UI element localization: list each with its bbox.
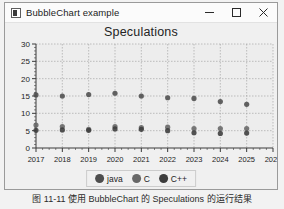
- legend-label-c: C: [144, 174, 150, 184]
- svg-text:2022: 2022: [159, 155, 176, 164]
- screenshot-root: BubbleChart example: [0, 0, 284, 209]
- legend-item-c[interactable]: C: [132, 174, 150, 184]
- svg-text:25: 25: [21, 57, 30, 66]
- minimize-button[interactable]: [196, 3, 223, 22]
- legend-label-cpp: C++: [171, 174, 187, 184]
- svg-text:20: 20: [21, 75, 30, 84]
- legend-item-cpp[interactable]: C++: [159, 174, 187, 184]
- svg-text:15: 15: [21, 92, 30, 101]
- legend-label-java: java: [107, 174, 123, 184]
- plot-area: 0510152025302017201820192020202120222023…: [5, 40, 277, 168]
- figure-caption: 图 11-11 使用 BubbleChart 的 Speculations 的运…: [0, 192, 284, 205]
- svg-text:0: 0: [26, 144, 31, 153]
- svg-text:2019: 2019: [80, 155, 97, 164]
- app-icon: [11, 8, 21, 18]
- svg-text:2021: 2021: [133, 155, 150, 164]
- svg-text:2018: 2018: [54, 155, 71, 164]
- svg-text:2020: 2020: [107, 155, 124, 164]
- window-controls: [196, 3, 277, 22]
- chart-title: Speculations: [5, 25, 277, 39]
- close-icon: [258, 7, 269, 18]
- maximize-icon: [231, 7, 242, 18]
- window-titlebar[interactable]: BubbleChart example: [5, 3, 277, 23]
- application-window: BubbleChart example: [4, 2, 278, 190]
- svg-text:2026: 2026: [265, 155, 277, 164]
- svg-text:2024: 2024: [212, 155, 229, 164]
- svg-text:30: 30: [21, 40, 30, 49]
- legend-item-java[interactable]: java: [95, 174, 123, 184]
- svg-text:5: 5: [26, 127, 31, 136]
- svg-text:2017: 2017: [28, 155, 45, 164]
- svg-text:10: 10: [21, 109, 30, 118]
- window-title: BubbleChart example: [26, 7, 119, 18]
- close-button[interactable]: [250, 3, 277, 22]
- scatter-plot: 0510152025302017201820192020202120222023…: [5, 40, 277, 168]
- maximize-button[interactable]: [223, 3, 250, 22]
- svg-text:2025: 2025: [238, 155, 255, 164]
- minimize-icon: [204, 7, 215, 18]
- chart-legend: java C C++: [86, 170, 196, 187]
- legend-swatch-c: [132, 174, 141, 183]
- legend-swatch-cpp: [159, 174, 168, 183]
- legend-swatch-java: [95, 174, 104, 183]
- svg-text:2023: 2023: [186, 155, 203, 164]
- chart-body: Speculations 051015202530201720182019202…: [5, 23, 277, 189]
